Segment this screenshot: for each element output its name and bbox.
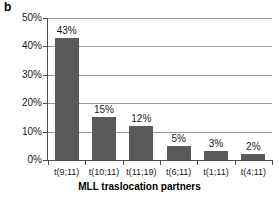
gridline <box>48 132 272 133</box>
y-axis-tick-label: 40% <box>2 41 42 51</box>
bar <box>92 117 116 160</box>
y-axis-tick <box>43 132 48 133</box>
y-axis-tick-label: 50% <box>2 13 42 23</box>
x-axis-tick <box>235 160 236 165</box>
x-axis-category-label: t(4;11) <box>231 167 275 177</box>
bar-value-label: 12% <box>124 114 158 124</box>
y-axis-tick <box>43 103 48 104</box>
gridline <box>48 18 272 19</box>
x-axis-tick <box>85 160 86 165</box>
y-axis-tick-label: 10% <box>2 127 42 137</box>
x-axis-tick <box>272 160 273 165</box>
gridline <box>48 46 272 47</box>
bar <box>55 38 79 160</box>
x-axis-tick <box>160 160 161 165</box>
bar-value-label: 5% <box>162 134 196 144</box>
y-axis-tick-label: 20% <box>2 98 42 108</box>
bar-value-label: 2% <box>236 142 270 152</box>
x-axis-tick <box>123 160 124 165</box>
x-axis-tick <box>48 160 49 165</box>
figure-panel-b: b 0%10%20%30%40%50% MLL traslocation par… <box>0 0 279 199</box>
bar-value-label: 43% <box>50 26 84 36</box>
y-axis-tick-labels: 0%10%20%30%40%50% <box>0 0 42 199</box>
plot-area <box>48 18 272 160</box>
y-axis-tick-label: 0% <box>2 155 42 165</box>
y-axis-tick <box>43 46 48 47</box>
x-axis-tick <box>197 160 198 165</box>
y-axis-tick <box>43 18 48 19</box>
y-axis-tick-label: 30% <box>2 70 42 80</box>
gridline <box>48 75 272 76</box>
bar-value-label: 15% <box>87 105 121 115</box>
gridline <box>48 103 272 104</box>
bar <box>129 126 153 160</box>
bar-value-label: 3% <box>199 139 233 149</box>
bar <box>241 154 265 160</box>
bar <box>167 146 191 160</box>
x-axis-title: MLL traslocation partners <box>0 181 279 193</box>
bar <box>204 151 228 160</box>
y-axis-tick <box>43 75 48 76</box>
